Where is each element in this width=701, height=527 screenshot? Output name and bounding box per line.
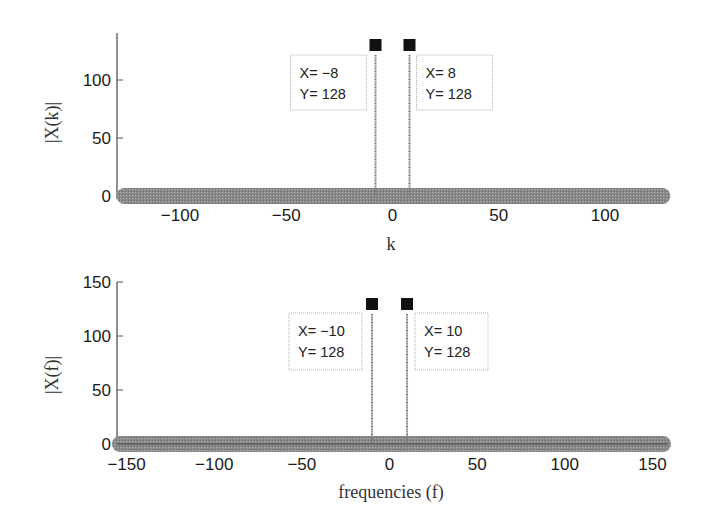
x-tick-label: 50 [489,206,508,225]
datatip-x-value: X= 8 [426,65,456,81]
x-tick-label: 0 [388,206,397,225]
datatip-marker[interactable] [401,298,413,310]
x-axis-label: k [387,234,396,254]
datatip-box [289,313,362,370]
plot-dft-magnitude: 050100−100−50050100k|X(k)|X= −8Y= 128X= … [42,33,670,254]
y-tick-label: 50 [92,129,111,148]
x-tick-label: 100 [591,206,619,225]
x-tick-label: 50 [468,455,487,474]
datatip-y-value: Y= 128 [424,344,470,360]
y-tick-label: 0 [102,187,111,206]
datatip-marker[interactable] [366,298,378,310]
x-tick-label: −50 [287,455,316,474]
datatip[interactable]: X= −8Y= 128 [291,55,367,110]
x-tick-label: −100 [195,455,233,474]
y-tick-label: 150 [83,273,111,292]
datatip[interactable]: X= 10Y= 128 [415,313,488,370]
datatip-marker[interactable] [404,39,416,51]
datatip[interactable]: X= 8Y= 128 [417,55,493,110]
x-tick-label: 100 [551,455,579,474]
datatip-y-value: Y= 128 [426,86,472,102]
datatip-x-value: X= −8 [300,65,339,81]
datatip-marker[interactable] [370,39,382,51]
x-tick-label: 150 [638,455,666,474]
datatip-y-value: Y= 128 [300,86,346,102]
x-tick-label: −100 [161,206,199,225]
datatip-y-value: Y= 128 [298,344,344,360]
baseline-markers [117,188,671,204]
y-axis-label: |X(f)| [42,356,63,394]
spectrum-figure: 050100−100−50050100k|X(k)|X= −8Y= 128X= … [0,0,701,527]
y-tick-label: 100 [83,327,111,346]
datatip-box [415,313,488,370]
plot-frequency-magnitude: 050100150−150−100−50050100150frequencies… [42,273,671,503]
x-axis-label: frequencies (f) [338,482,443,503]
y-tick-label: 100 [83,71,111,90]
datatip[interactable]: X= −10Y= 128 [289,313,362,370]
x-tick-label: 0 [385,455,394,474]
x-tick-label: −150 [107,455,145,474]
y-tick-label: 50 [92,381,111,400]
y-tick-label: 0 [102,435,111,454]
y-axis-label: |X(k)| [42,102,63,143]
datatip-x-value: X= 10 [424,323,462,339]
x-tick-label: −50 [272,206,301,225]
datatip-x-value: X= −10 [298,323,345,339]
